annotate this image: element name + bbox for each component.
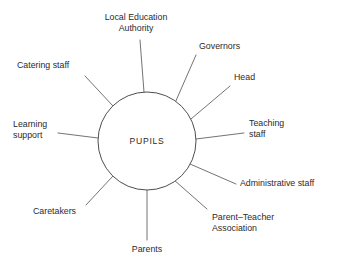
node-label: Teaching staff — [249, 118, 319, 139]
spoke-line — [85, 76, 113, 106]
spoke-line — [175, 55, 196, 103]
node-label: Head — [234, 72, 288, 83]
spoke-line — [86, 176, 113, 205]
node-label: Parent–Teacher Association — [212, 212, 297, 233]
bottom-caption — [28, 262, 318, 270]
node-label: Catering staff — [17, 60, 99, 71]
spoke-line — [140, 40, 144, 92]
node-label: Local Education Authority — [86, 12, 186, 33]
spoke-line — [174, 180, 207, 209]
spoke-line — [191, 86, 230, 119]
node-label: Parents — [112, 244, 182, 255]
node-label: Caretakers — [33, 206, 105, 217]
radial-diagram: PUPILS Local Education AuthorityGovernor… — [0, 0, 337, 270]
spoke-line — [196, 133, 244, 139]
hub-circle — [98, 92, 196, 190]
node-label: Learning support — [13, 119, 77, 140]
node-label: Administrative staff — [240, 178, 336, 189]
node-label: Governors — [199, 41, 269, 52]
spoke-line — [190, 164, 236, 184]
